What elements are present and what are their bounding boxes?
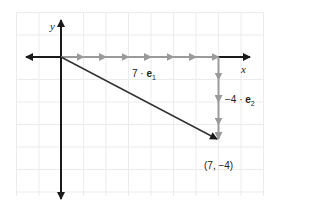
y-axis-label: y [50, 20, 55, 32]
x-axis-label: x [241, 63, 246, 75]
point-label: (7, −4) [204, 160, 233, 171]
component-e1-label: 7 · e1 [132, 68, 156, 81]
component-e2-label: −4 · e2 [225, 94, 255, 107]
